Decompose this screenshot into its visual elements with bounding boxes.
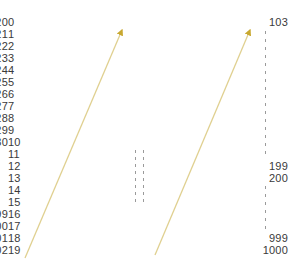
- number-cell: 103: [244, 17, 288, 28]
- number-cell: 200: [244, 173, 288, 184]
- number-cell: 1000: [244, 245, 288, 256]
- third-column: 103 199 200 999 1000: [0, 0, 290, 274]
- number-cell: 999: [244, 233, 288, 244]
- number-cell: 199: [244, 161, 288, 172]
- diagram-canvas: 0 1 2 3 4 5 6 7 8 9 10 11 12 13 14 15 16…: [0, 0, 290, 274]
